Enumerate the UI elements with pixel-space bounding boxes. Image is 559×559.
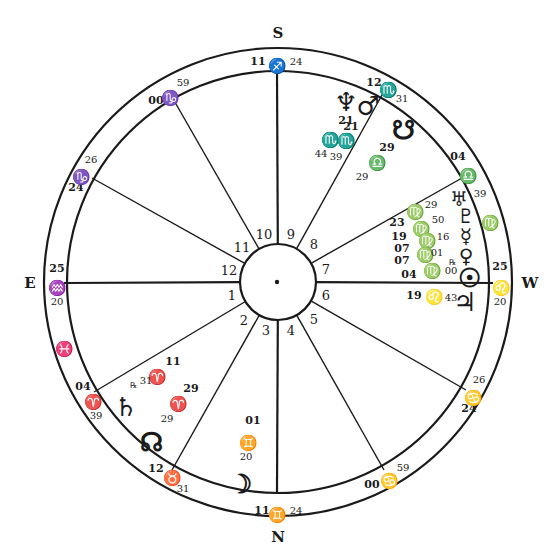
- cusp-minutes: 24: [290, 56, 303, 67]
- planet-minutes: 31: [140, 375, 153, 386]
- retrograde-icon-venus: ℞: [449, 258, 456, 267]
- planet-sign-icon: ♍: [406, 203, 425, 221]
- cusp-degree: 12: [148, 462, 163, 475]
- pisces-icon: ♓: [55, 340, 74, 358]
- center-dot: [275, 280, 279, 284]
- cusp-label-house-5: 00♋59: [364, 462, 409, 491]
- cusp-degree: 04: [75, 380, 91, 393]
- cusp-degree: 00: [364, 478, 380, 491]
- planet-sign-icon: ♊: [239, 434, 258, 452]
- planet-minutes: 29: [161, 413, 174, 424]
- cusp-label-house-2: 04♈39: [75, 380, 102, 421]
- planet-degree: 07: [394, 254, 409, 267]
- planet-minutes: 01: [431, 247, 444, 258]
- cusp-degree: 25: [49, 262, 64, 275]
- cusp-label-house-7: 25♌20: [492, 260, 511, 307]
- cusp-sign-icon: ♑: [72, 168, 91, 186]
- house-number-8: 8: [310, 237, 318, 252]
- planet-sign-icon: ♏: [337, 132, 356, 150]
- planet-degree: 29: [379, 141, 394, 154]
- direction-south: S: [273, 24, 284, 42]
- cusp-minutes: 26: [85, 154, 98, 165]
- planet-south-node: ☋29♎29: [356, 115, 415, 182]
- planet-minutes: 44: [315, 148, 328, 159]
- neptune-icon: ♆: [334, 87, 357, 117]
- planet-jupiter: ♃19♌43: [406, 287, 476, 317]
- natal-chart-wheel: 123456789101112 11♐2412♏3104♎3925♌2024♋2…: [0, 0, 559, 559]
- planet-degree: 29: [183, 382, 198, 395]
- house-number-7: 7: [322, 262, 330, 277]
- cusp-line-house-10: [277, 71, 278, 244]
- cusp-label-house-1: 25♒20: [48, 262, 67, 307]
- cusp-line-house-6: [311, 301, 466, 390]
- house-number-2: 2: [240, 313, 248, 328]
- house-number-6: 6: [322, 288, 330, 303]
- cusp-degree: 11: [250, 55, 265, 68]
- cusp-sign-icon: ♒: [48, 279, 67, 297]
- house-number-11: 11: [234, 240, 251, 255]
- planet-sign-icon: ♎: [368, 154, 387, 172]
- planet-minutes: 50: [432, 214, 445, 225]
- planet-degree: 01: [245, 414, 260, 427]
- house-number-1: 1: [228, 288, 236, 303]
- direction-east: E: [24, 274, 35, 292]
- planet-minutes: 20: [240, 451, 253, 462]
- direction-north: N: [271, 528, 285, 546]
- cusp-sign-icon: ♎: [459, 167, 478, 185]
- planet-sign-icon: ♌: [425, 288, 444, 306]
- planet-degree: 11: [165, 355, 180, 368]
- cusp-sign-icon: ♋: [464, 389, 483, 407]
- direction-west: W: [521, 274, 540, 292]
- cusp-minutes: 31: [177, 483, 190, 494]
- cusp-minutes: 59: [177, 77, 190, 88]
- cusp-minutes: 39: [474, 188, 487, 199]
- cusp-minutes: 31: [396, 93, 409, 104]
- cusp-label-house-4: 11♊24: [254, 504, 302, 524]
- moon-icon: ☽: [229, 469, 252, 499]
- cusp-minutes: 24: [290, 505, 303, 516]
- cusp-line-house-5: [297, 315, 384, 470]
- cusp-degree: 04: [450, 150, 466, 163]
- planet-degree: 04: [401, 268, 417, 281]
- cusp-minutes: 39: [90, 410, 103, 421]
- cusp-minutes: 20: [494, 296, 507, 307]
- planet-minutes: 29: [425, 199, 438, 210]
- house-number-10: 10: [256, 227, 273, 242]
- cusp-line-house-12: [92, 178, 245, 263]
- cusp-minutes: 20: [51, 296, 64, 307]
- planet-north-node: ☊29♈29: [140, 382, 199, 457]
- planet-sign-icon: ♍: [423, 262, 442, 280]
- cusp-sign-icon: ♋: [380, 472, 399, 490]
- cusp-minutes: 26: [473, 374, 486, 385]
- virgo-icon: ♍: [481, 214, 500, 232]
- planet-sign-icon: ♈: [169, 395, 188, 413]
- planet-minutes: 29: [356, 171, 369, 182]
- cusp-sign-icon: ♈: [84, 393, 103, 411]
- north-node-icon: ☊: [140, 427, 163, 457]
- cusp-degree: 25: [492, 260, 507, 273]
- planet-placements: ♆21♏44♂21♏39☋29♎29♅23♍29♇19♍50☿07♍16♀07♍…: [114, 87, 480, 499]
- house-number-3: 3: [262, 323, 270, 338]
- cusp-sign-icon: ♌: [492, 279, 511, 297]
- cusp-sign-icon: ♊: [268, 506, 287, 524]
- planet-degree: 19: [406, 289, 421, 302]
- cusp-label-house-11: 00♑59: [148, 77, 189, 107]
- cusp-label-house-12: 24♑26: [68, 154, 97, 194]
- house-number-9: 9: [287, 227, 295, 242]
- south-node-icon: ☋: [392, 115, 415, 145]
- cusp-line-house-4: [277, 320, 278, 492]
- cusp-sign-icon: ♑: [161, 89, 180, 107]
- planet-minutes: 39: [330, 151, 343, 162]
- saturn-icon: ♄: [114, 392, 137, 422]
- planet-minutes: 16: [437, 231, 450, 242]
- planet-minutes: 43: [445, 292, 458, 303]
- planet-degree: 23: [389, 216, 404, 229]
- cusp-line-house-11: [172, 97, 259, 249]
- mars-icon: ♂: [356, 91, 379, 121]
- cusp-line-house-2: [94, 301, 245, 392]
- planet-moon: ☽01♊20: [229, 414, 261, 499]
- house-number-5: 5: [310, 312, 318, 327]
- house-number-4: 4: [287, 323, 295, 338]
- cusp-sign-icon: ♐: [268, 57, 287, 75]
- cusp-minutes: 59: [397, 462, 410, 473]
